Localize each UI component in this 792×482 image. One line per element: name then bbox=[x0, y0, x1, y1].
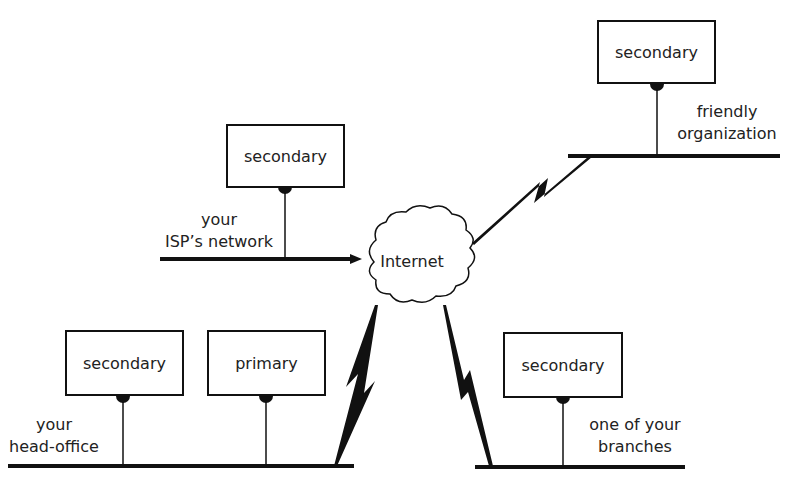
label-line: your bbox=[4, 414, 104, 436]
server-role-label: secondary bbox=[83, 354, 166, 373]
label-line: ISP’s network bbox=[160, 231, 278, 253]
server-role-label: primary bbox=[235, 354, 298, 373]
server-box-headoffice-primary: primary bbox=[207, 330, 326, 396]
label-line: branches bbox=[580, 436, 690, 458]
dns-topology-diagram: secondary secondary secondary primary se… bbox=[0, 0, 792, 482]
server-box-branch: secondary bbox=[503, 332, 623, 398]
label-line: head-office bbox=[4, 436, 104, 458]
internet-label: Internet bbox=[370, 251, 454, 273]
headoffice-network-label: your head-office bbox=[4, 414, 104, 458]
friendly-network-label: friendly organization bbox=[672, 101, 782, 145]
label-line: friendly bbox=[672, 101, 782, 123]
label-line: organization bbox=[672, 123, 782, 145]
label-line: one of your bbox=[580, 414, 690, 436]
lightning-bolt-icon bbox=[443, 305, 493, 466]
server-box-headoffice-secondary: secondary bbox=[65, 330, 184, 396]
server-box-friendly: secondary bbox=[597, 20, 716, 84]
server-role-label: secondary bbox=[615, 43, 698, 62]
branch-network-label: one of your branches bbox=[580, 414, 690, 458]
server-role-label: secondary bbox=[244, 147, 327, 166]
arrow-head-icon bbox=[350, 254, 362, 264]
lightning-bolt-icon bbox=[472, 157, 592, 245]
isp-network-label: your ISP’s network bbox=[160, 209, 278, 253]
label-line: your bbox=[160, 209, 278, 231]
server-box-isp: secondary bbox=[226, 124, 345, 188]
lightning-bolt-icon bbox=[334, 305, 378, 466]
server-role-label: secondary bbox=[522, 356, 605, 375]
